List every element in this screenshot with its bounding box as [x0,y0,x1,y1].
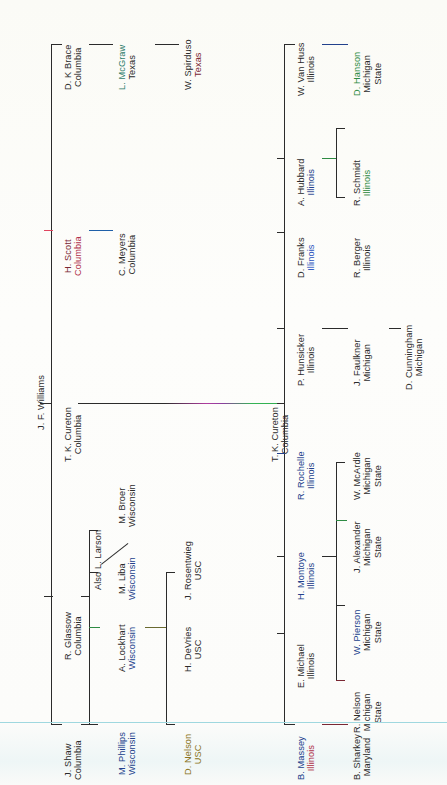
node-emichael-school: Illinois [306,644,316,688]
node-hunsicker-name: P. Hunsicker [296,334,306,386]
node-rosentwieg-name: J. Rosentwieg [183,541,193,600]
node-brace-name: D. K Brace [63,45,73,90]
node-scott-school: Columbia [73,236,83,276]
hubbard-bracket-vertical [336,128,337,198]
scan-artifact-band [0,722,447,723]
tick-schmidt [336,128,345,129]
node-alexander-school: MichiganState [362,521,383,573]
node-rochelle-school: Illinois [306,451,316,500]
node-devries-name: H. DeVries [183,627,193,672]
tick-emichael [277,633,285,634]
connector-cureton-right-trunk [277,403,285,404]
node-franks[interactable]: D. Franks Illinois [296,237,317,278]
node-vanhuss[interactable]: W. Van Huss Illinois [296,42,317,96]
node-glassow[interactable]: R. Glassow Columbia [63,612,84,660]
connector-trunk-glassow [44,596,53,597]
node-sharkey-name: B. Sharkey [352,734,362,780]
connector-cureton-bridge [78,403,285,404]
node-franks-name: D. Franks [296,237,306,278]
node-hubbard[interactable]: A. Hubbard Illinois [296,159,317,206]
node-broer[interactable]: M. Broer Wisconsin [117,484,138,527]
node-emichael[interactable]: E. Michael Illinois [296,644,317,688]
node-pierson-school: MichiganState [362,610,383,655]
node-phillips-school: Wisconsin [127,732,137,775]
node-mcgraw-school: Texas [127,45,137,90]
node-massey[interactable]: B. Massey Illinois [296,736,317,780]
node-rochelle-name: R. Rochelle [296,451,306,500]
montoye-bracket-vertical [336,462,337,680]
node-mcardle-school: MichiganState [362,452,383,500]
node-broer-name: M. Broer [117,484,127,527]
node-dnelson-name: D. Nelson [183,734,193,775]
node-hubbard-name: A. Hubbard [296,159,306,206]
node-montoye[interactable]: H. Montoye Illinois [296,552,317,600]
node-hunsicker-school: Illinois [306,334,316,386]
connector-glassow-bracket [81,596,90,597]
tick-lockhart [89,627,100,628]
tick-montoye [277,556,285,557]
node-spirduso-name: W. Spirduso [183,39,193,90]
node-rnelson[interactable]: R. Nelson MichiganState [352,692,383,733]
node-williams[interactable]: J. F. Williams [36,375,46,430]
node-hanson[interactable]: D. Hanson MichiganState [352,52,383,96]
node-brace[interactable]: D. K Brace Columbia [63,45,84,90]
tick-pierson [336,605,345,606]
node-scott-name: H. Scott [63,236,73,276]
node-lockhart[interactable]: A. Lockhart Wisconsin [117,624,138,672]
tick-mcardle [336,462,345,463]
tick-vanhuss [284,44,295,45]
tick-hubbard [277,158,285,159]
tick-dnelson [166,724,175,725]
node-shaw-name: J. Shaw [63,740,73,780]
node-cureton-left-school: Columbia [73,407,83,462]
node-cunningham[interactable]: D. Cunningham Michigan [404,325,425,390]
node-berger-name: R. Berger [352,238,362,278]
node-hunsicker[interactable]: P. Hunsicker Illinois [296,334,317,386]
connector-vanhuss-hanson [322,44,348,45]
node-sharkey[interactable]: B. Sharkey Maryland [352,734,373,780]
node-schmidt-school: Illinois [362,160,372,206]
tick-rnelson [336,680,345,681]
connector-lockhart-devries [145,627,167,628]
node-phillips[interactable]: M. Phillips Wisconsin [117,732,138,775]
node-rosentwieg-school: USC [193,541,203,600]
node-rosentwieg[interactable]: J. Rosentwieg USC [183,541,204,600]
node-hubbard-school: Illinois [306,159,316,206]
node-lockhart-name: A. Lockhart [117,624,127,672]
trunk-right-vertical [284,44,285,725]
tick-berger [336,197,345,198]
node-larson-name: Also L. Larson [93,530,103,590]
node-spirduso[interactable]: W. Spirduso Texas [183,39,204,90]
node-faulkner[interactable]: J. Faulkner Michigan [352,339,373,386]
node-hanson-school: MichiganState [362,52,383,96]
connector-trunk-scott [44,230,53,231]
node-meyers-school: Columbia [127,233,137,276]
node-cureton-left-name: T. K. Cureton [63,407,73,462]
node-shaw[interactable]: J. Shaw Columbia [63,740,84,780]
node-pierson[interactable]: W. Pierson MichiganState [352,610,383,655]
node-rochelle[interactable]: R. Rochelle Illinois [296,451,317,500]
node-hanson-name: D. Hanson [352,52,362,96]
node-alexander[interactable]: J. Alexander MichiganState [352,521,383,573]
node-devries[interactable]: H. DeVries USC [183,627,204,672]
node-mcgraw[interactable]: L. McGraw Texas [117,45,138,90]
node-cunningham-name: D. Cunningham [404,325,414,390]
node-cureton-left[interactable]: T. K. Cureton Columbia [63,407,84,462]
node-vanhuss-name: W. Van Huss [296,42,306,96]
node-devries-school: USC [193,627,203,672]
node-meyers-name: C. Meyers [117,233,127,276]
node-meyers[interactable]: C. Meyers Columbia [117,233,138,276]
node-dnelson-school: USC [193,734,203,775]
node-montoye-school: Illinois [306,552,316,600]
usc-bracket-vertical [166,572,167,724]
node-scott[interactable]: H. Scott Columbia [63,236,84,276]
node-emichael-name: E. Michael [296,644,306,688]
node-liba[interactable]: M. Liba Wisconsin [117,557,138,600]
node-larson[interactable]: Also L. Larson [93,530,103,590]
node-schmidt[interactable]: R. Schmidt Illinois [352,160,373,206]
node-dnelson[interactable]: D. Nelson USC [183,734,204,775]
node-berger[interactable]: R. Berger Illinois [352,238,373,278]
node-mcardle[interactable]: W. McArdle MichiganState [352,452,383,500]
node-pierson-name: W. Pierson [352,610,362,655]
node-broer-school: Wisconsin [127,484,137,527]
